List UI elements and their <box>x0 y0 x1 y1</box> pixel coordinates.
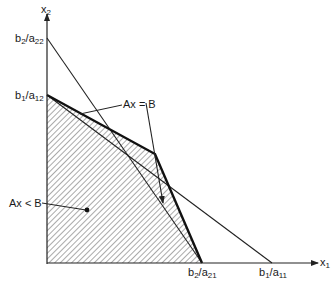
diagram-canvas <box>0 0 335 281</box>
x1-axis-label: x1 <box>320 256 330 268</box>
y-intercept-b2-a22: b2/a22 <box>15 32 44 44</box>
interior-annotation: Ax < B <box>9 197 42 209</box>
feasible-region <box>47 95 202 263</box>
y-intercept-b1-a12: b1/a12 <box>15 89 44 101</box>
x-intercept-b1-a11: b1/a11 <box>259 266 287 278</box>
x2-axis-label: x2 <box>41 3 51 15</box>
ax-eq-b-pointer-short <box>80 105 122 114</box>
x-intercept-b2-a21: b2/a21 <box>188 266 217 278</box>
boundary-annotation: Ax = B <box>123 98 156 110</box>
interior-point <box>85 208 90 213</box>
